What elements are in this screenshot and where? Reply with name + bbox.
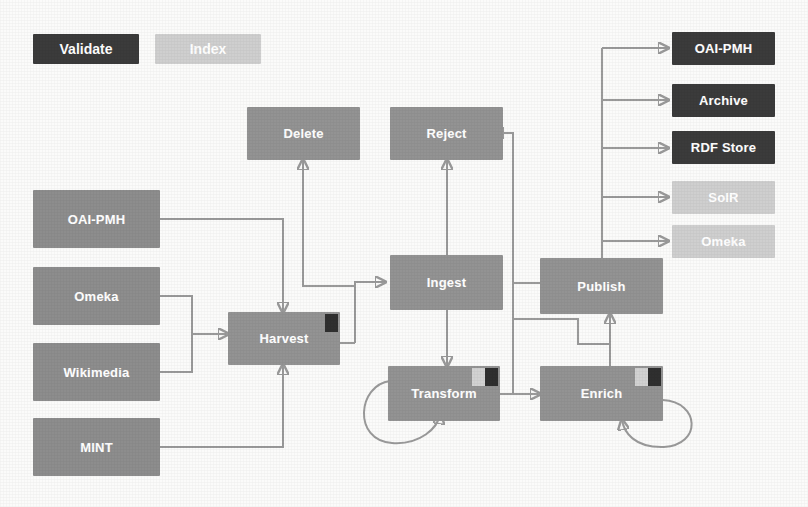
node-process-ingest[interactable]: Ingest xyxy=(390,255,503,310)
node-label: SolR xyxy=(708,190,738,205)
node-source-oai-pmh[interactable]: OAI-PMH xyxy=(33,190,160,248)
badge-index-icon xyxy=(472,368,485,386)
node-label: OAI-PMH xyxy=(68,212,126,227)
workflow-diagram: Validate Index OAI-PMH Omeka Wikimedia M… xyxy=(0,0,808,507)
wire-publish-enrich xyxy=(513,319,610,344)
legend-label-index: Index xyxy=(190,41,227,57)
legend-label-validate: Validate xyxy=(60,41,113,57)
node-label: Archive xyxy=(699,93,748,108)
badge-validate-icon xyxy=(485,368,498,386)
node-label: Reject xyxy=(426,126,466,141)
node-label: Ingest xyxy=(427,275,466,290)
node-label: MINT xyxy=(80,440,113,455)
wire-omeka-merge xyxy=(160,296,192,334)
node-label: Publish xyxy=(577,279,625,294)
node-process-publish[interactable]: Publish xyxy=(540,258,663,314)
node-source-omeka[interactable]: Omeka xyxy=(33,267,160,325)
legend-item-index: Index xyxy=(155,34,261,64)
node-label: Transform xyxy=(411,386,476,401)
node-label: RDF Store xyxy=(691,140,756,155)
node-label: Harvest xyxy=(259,331,308,346)
node-output-archive[interactable]: Archive xyxy=(672,84,775,117)
legend-item-validate: Validate xyxy=(33,34,139,64)
wire-harvest-ingest xyxy=(355,282,385,343)
wire-oaipmh-harvest xyxy=(160,219,283,312)
node-label: Enrich xyxy=(581,386,623,401)
node-source-mint[interactable]: MINT xyxy=(33,418,160,476)
node-output-oai-pmh[interactable]: OAI-PMH xyxy=(672,32,775,65)
node-source-wikimedia[interactable]: Wikimedia xyxy=(33,343,160,401)
wire-wikimedia-merge xyxy=(160,334,192,372)
node-process-delete[interactable]: Delete xyxy=(247,107,360,160)
node-label: Delete xyxy=(283,126,323,141)
node-process-transform[interactable]: Transform xyxy=(388,366,500,421)
node-process-enrich[interactable]: Enrich xyxy=(540,366,663,421)
badge-validate-icon xyxy=(648,368,661,386)
node-output-rdf-store[interactable]: RDF Store xyxy=(672,131,775,164)
wire-mint-harvest xyxy=(160,365,283,447)
node-output-solr[interactable]: SolR xyxy=(672,181,775,214)
node-label: Omeka xyxy=(701,234,745,249)
badge-index-icon xyxy=(635,368,648,386)
node-process-reject[interactable]: Reject xyxy=(390,107,503,160)
node-label: Wikimedia xyxy=(64,365,130,380)
node-label: Omeka xyxy=(74,289,118,304)
node-label: OAI-PMH xyxy=(695,41,753,56)
node-output-omeka[interactable]: Omeka xyxy=(672,225,775,258)
badge-validate-icon xyxy=(325,314,338,332)
node-process-harvest[interactable]: Harvest xyxy=(228,312,340,365)
